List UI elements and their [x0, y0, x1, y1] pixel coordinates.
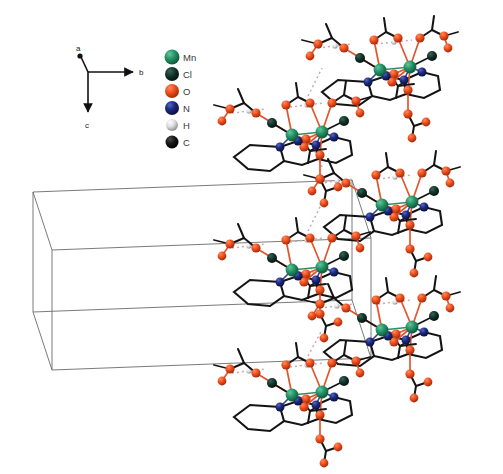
- hbond-chain-5: [308, 330, 322, 356]
- cell-edge-bottom-front: [52, 358, 371, 370]
- hbond-chain-1: [308, 68, 322, 96]
- atom-color-legend: Mn Cl O N H C: [165, 50, 197, 149]
- molecular-unit-6: [214, 341, 370, 467]
- h-atom: [332, 43, 337, 48]
- cell-edge-back-top: [33, 180, 352, 192]
- legend-label-o: O: [183, 86, 190, 97]
- legend-label-cl: Cl: [183, 69, 192, 80]
- axis-label-a: a: [76, 44, 81, 53]
- axis-a-head: [77, 53, 82, 58]
- legend-item-n: N: [165, 101, 190, 115]
- legend-label-n: N: [183, 103, 190, 114]
- axis-label-b: b: [139, 68, 144, 77]
- cell-edge-left-diag-top: [33, 192, 52, 250]
- legend-item-c: C: [166, 136, 191, 149]
- axis-a-line: [81, 57, 88, 72]
- legend-swatch-mn-icon: [165, 50, 180, 65]
- unit-cell-box: [33, 180, 371, 370]
- legend-swatch-h-icon: [166, 119, 178, 131]
- cell-edge-bottom-back: [33, 300, 352, 312]
- legend-swatch-o-icon: [165, 84, 179, 98]
- legend-label-c: C: [183, 137, 190, 148]
- crystal-structure-figure: a b c Mn Cl O N H: [0, 0, 503, 474]
- legend-item-cl: Cl: [165, 67, 192, 81]
- hbond-chain-3: [308, 203, 322, 231]
- legend-swatch-c-icon: [166, 136, 179, 149]
- molecular-chain: [214, 16, 460, 467]
- legend-swatch-n-icon: [165, 101, 179, 115]
- h-atom: [334, 303, 339, 308]
- legend-label-h: H: [183, 120, 190, 131]
- legend-item-mn: Mn: [165, 50, 197, 65]
- legend-label-mn: Mn: [183, 52, 196, 63]
- legend-swatch-cl-icon: [165, 67, 179, 81]
- crystallographic-axis-indicator: a b c: [76, 44, 144, 130]
- molecular-unit-3: [304, 151, 460, 277]
- cell-edge-left-diag-bottom: [33, 312, 52, 370]
- molecular-unit-2: [214, 81, 370, 207]
- cell-edge-mid-top: [52, 238, 371, 250]
- axis-label-c: c: [85, 121, 89, 130]
- structure-canvas: a b c Mn Cl O N H: [0, 0, 503, 474]
- legend-item-o: O: [165, 84, 190, 98]
- molecular-unit-4: [214, 216, 370, 342]
- legend-item-h: H: [166, 119, 190, 131]
- cell-edge-right-diag-bottom: [352, 300, 371, 358]
